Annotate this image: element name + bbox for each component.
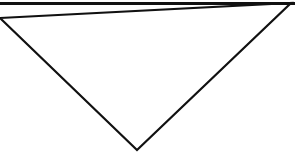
figure-canvas: Inverted triangle outline (0, 0, 295, 157)
inverted-triangle-shape (0, 3, 291, 150)
triangle-diagram (0, 0, 295, 157)
